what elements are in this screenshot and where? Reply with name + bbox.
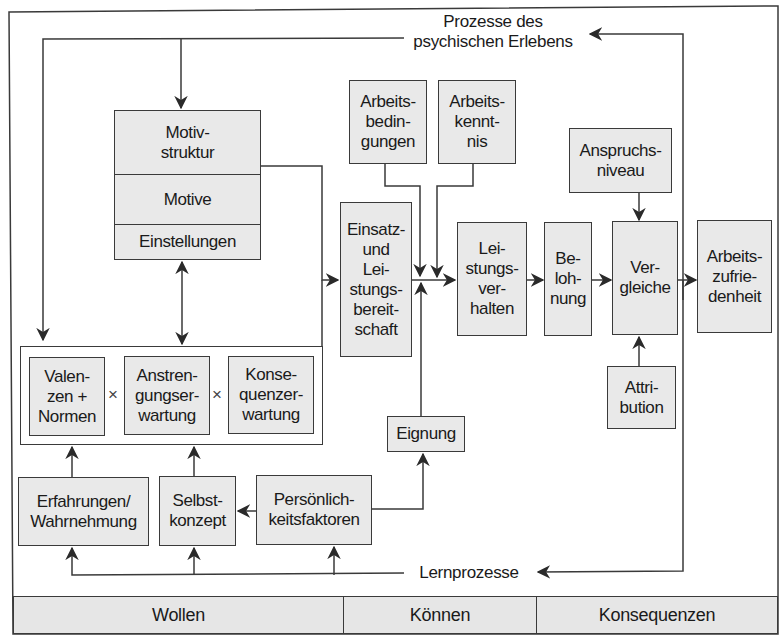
node-motivstruktur-stack: Motiv- struktur Motive Einstellungen xyxy=(114,110,261,260)
multiply-operator: × xyxy=(212,385,222,405)
node-attribution: Attri- bution xyxy=(607,366,676,429)
node-arbeitszufriedenheit: Arbeits- zufrie- denheit xyxy=(697,220,772,333)
band-wollen: Wollen xyxy=(13,596,344,634)
node-belohnung: Be- loh- nung xyxy=(544,222,592,336)
node-einstellungen: Einstellungen xyxy=(115,225,260,259)
node-erfahrungen-wahrnehmung: Erfahrungen/ Wahrnehmung xyxy=(18,477,149,546)
motivation-diagram: Prozesse des psychischen Erlebens Motiv-… xyxy=(0,0,781,641)
node-vergleiche: Ver- gleiche xyxy=(612,221,678,335)
node-einsatz-leistungsbereitschaft: Einsatz- und Lei- stungs- bereit- schaft xyxy=(340,202,412,357)
node-eignung: Eignung xyxy=(387,416,465,452)
node-valenzen-normen: Valen- zen + Normen xyxy=(29,357,105,436)
multiply-operator: × xyxy=(108,385,118,405)
node-motive: Motive xyxy=(115,175,260,225)
node-konsequenzerwartung: Konse- quenzer- wartung xyxy=(228,356,314,434)
node-anstrengungserwartung: Anstren- gungser- wartung xyxy=(124,356,210,435)
label-lernprozesse: Lernprozesse xyxy=(408,563,530,583)
band-koennen: Können xyxy=(344,596,537,634)
node-leistungsverhalten: Lei- stungs- ver- halten xyxy=(457,222,527,336)
node-motivstruktur: Motiv- struktur xyxy=(115,111,260,175)
node-anspruchsniveau: Anspruchs- niveau xyxy=(569,128,672,193)
band-konsequenzen: Konsequenzen xyxy=(537,596,778,634)
node-arbeitskenntnis: Arbeits- kennt- nis xyxy=(438,80,516,164)
node-arbeitsbedingungen: Arbeits- bedin- gungen xyxy=(349,80,427,164)
label-prozesse-psychisches-erleben: Prozesse des psychischen Erlebens xyxy=(404,12,582,52)
node-persoenlichkeitsfaktoren: Persönlich- keitsfaktoren xyxy=(256,475,372,545)
node-selbstkonzept: Selbst- konzept xyxy=(159,476,236,546)
